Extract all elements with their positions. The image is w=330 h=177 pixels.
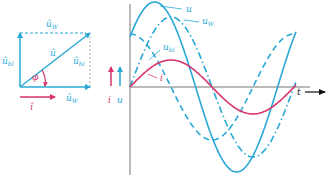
leader-line: [148, 74, 157, 78]
phasor-diagram: ûW ûbl û ûbl φ ûW î: [2, 19, 90, 112]
curve-label-ubl: ubl: [163, 42, 175, 53]
label-u-w-bottom: ûW: [66, 93, 79, 104]
label-u-bl-left: ûbl: [2, 56, 14, 67]
label-t: t: [297, 87, 301, 97]
label-i-axis: i: [108, 95, 111, 105]
phasor-and-waveform-diagram: ûW ûbl û ûbl φ ûW î i u t uuWubli: [0, 0, 330, 177]
phi-angle-arc: [42, 70, 45, 86]
label-u-axis: u: [117, 95, 123, 105]
curve-label-i: i: [160, 73, 163, 83]
curve-label-u: u: [186, 4, 192, 14]
label-u-w-top: ûW: [46, 19, 59, 30]
label-phi: φ: [32, 72, 39, 82]
axis-quantity-arrows: i u: [108, 67, 123, 105]
leader-line: [149, 50, 160, 60]
leader-line: [184, 20, 199, 22]
label-i-hat: î: [30, 102, 34, 112]
label-u-bl-right: ûbl: [73, 56, 85, 67]
label-u-hat: û: [50, 48, 56, 58]
curve-label-uw: uW: [202, 16, 215, 27]
waveform-axes: t: [130, 4, 325, 175]
